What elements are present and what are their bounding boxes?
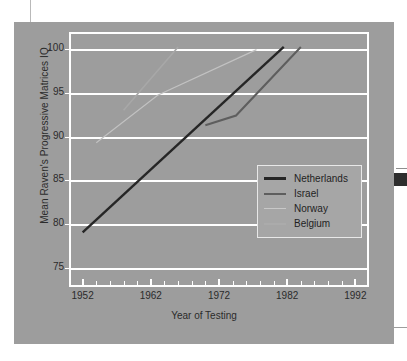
y-axis-title: Mean Raven's Progressive Matrices IQ [39, 36, 50, 236]
chart-legend: NetherlandsIsraelNorwayBelgium [257, 165, 362, 238]
legend-label: Netherlands [294, 173, 348, 184]
y-tick-label: 100 [47, 42, 64, 53]
x-axis-title: Year of Testing [14, 310, 394, 321]
page-rule-upper [396, 168, 407, 169]
y-tick-label: 75 [53, 261, 64, 272]
series-line [96, 50, 256, 143]
series-line [83, 47, 284, 233]
legend-swatch [264, 208, 286, 209]
x-tick-label: 1962 [140, 290, 162, 301]
x-tick-label: 1952 [72, 290, 94, 301]
y-tick-label: 95 [53, 86, 64, 97]
legend-label: Belgium [294, 218, 330, 229]
series-line [205, 47, 300, 125]
series-lines [69, 32, 369, 287]
x-tick-label: 1982 [276, 290, 298, 301]
legend-swatch [264, 223, 286, 225]
legend-swatch [264, 177, 286, 180]
plot-area: 7580859095100 19521962197219821992 Nethe… [69, 32, 369, 287]
legend-entry: Norway [264, 201, 355, 216]
y-tick-label: 90 [53, 130, 64, 141]
y-tick-label: 80 [53, 217, 64, 228]
y-tick-label: 85 [53, 173, 64, 184]
page-edge-line [30, 0, 31, 22]
legend-swatch [264, 193, 286, 195]
legend-entry: Israel [264, 186, 355, 201]
legend-label: Norway [294, 203, 328, 214]
x-tick-label: 1972 [208, 290, 230, 301]
legend-entry: Netherlands [264, 171, 355, 186]
chart-figure-panel: Mean Raven's Progressive Matrices IQ Yea… [14, 22, 394, 344]
legend-entry: Belgium [264, 216, 355, 231]
x-tick-label: 1992 [344, 290, 366, 301]
legend-label: Israel [294, 188, 318, 199]
